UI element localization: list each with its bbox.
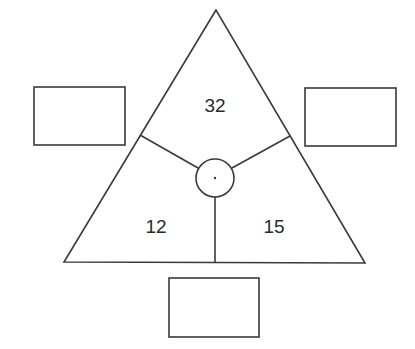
spoke-right [232, 136, 290, 168]
section-bottom-left-value: 12 [145, 216, 166, 237]
answer-box-left[interactable] [34, 87, 125, 145]
section-top-value: 32 [204, 95, 225, 116]
answer-box-bottom[interactable] [169, 278, 259, 337]
center-dot [214, 177, 216, 179]
triangle-diagram: 32 12 15 [0, 0, 415, 349]
answer-box-right[interactable] [305, 88, 396, 146]
spoke-left [140, 135, 198, 168]
section-bottom-right-value: 15 [263, 216, 284, 237]
